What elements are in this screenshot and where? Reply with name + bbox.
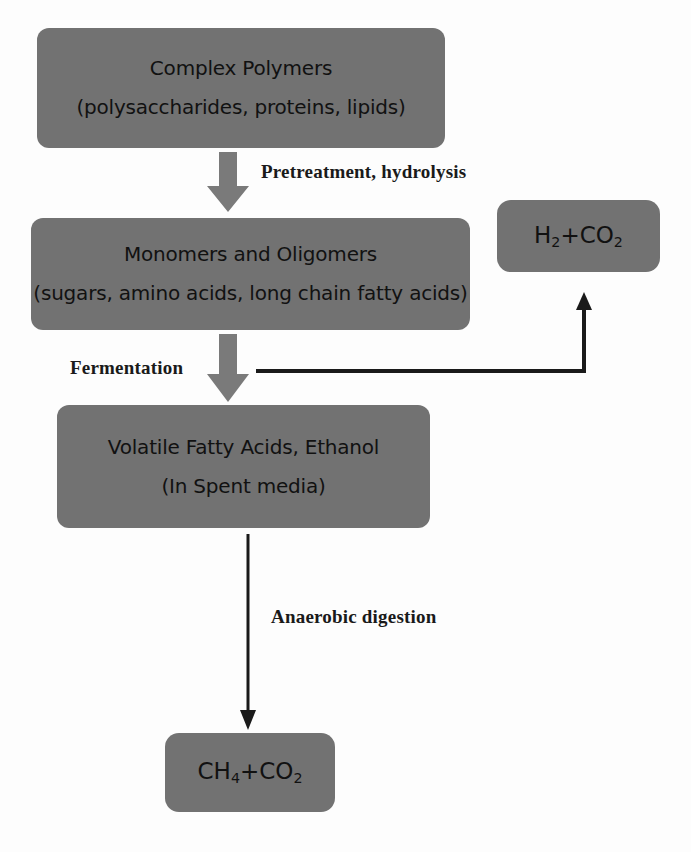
- h2-co2-main-1: H: [534, 222, 551, 248]
- node-methane-carbon-dioxide-formula: CH4+CO2: [198, 757, 303, 788]
- ch4-co2-main-1: CH: [198, 758, 231, 784]
- block-arrow-down-pretreatment-icon: [207, 152, 249, 212]
- arrow-down-anaerobic-digestion-icon: [228, 534, 268, 732]
- elbow-arrow-to-gas-icon: [240, 290, 592, 380]
- edge-label-anaerobic-digestion: Anaerobic digestion: [271, 606, 437, 628]
- ch4-co2-plus: +CO: [240, 758, 293, 784]
- node-volatile-fatty-acids: Volatile Fatty Acids, Ethanol (In Spent …: [57, 405, 430, 528]
- node-hydrogen-carbon-dioxide: H2+CO2: [497, 200, 660, 272]
- ch4-co2-sub-2: 2: [293, 770, 302, 786]
- node-complex-polymers-line1: Complex Polymers: [150, 56, 332, 81]
- h2-co2-plus: +CO: [560, 222, 613, 248]
- node-monomers-line1: Monomers and Oligomers: [124, 242, 377, 267]
- h2-co2-sub-2: 2: [614, 234, 623, 250]
- node-complex-polymers-line2: (polysaccharides, proteins, lipids): [76, 95, 405, 120]
- node-vfa-line1: Volatile Fatty Acids, Ethanol: [108, 435, 379, 460]
- node-complex-polymers: Complex Polymers (polysaccharides, prote…: [37, 28, 445, 148]
- flowchart-canvas: Complex Polymers (polysaccharides, prote…: [0, 0, 691, 852]
- node-methane-carbon-dioxide: CH4+CO2: [165, 733, 335, 812]
- node-vfa-line2: (In Spent media): [161, 474, 325, 499]
- edge-label-pretreatment: Pretreatment, hydrolysis: [261, 161, 466, 183]
- ch4-co2-sub-1: 4: [231, 770, 240, 786]
- node-hydrogen-carbon-dioxide-formula: H2+CO2: [534, 221, 623, 252]
- edge-label-fermentation: Fermentation: [70, 357, 183, 379]
